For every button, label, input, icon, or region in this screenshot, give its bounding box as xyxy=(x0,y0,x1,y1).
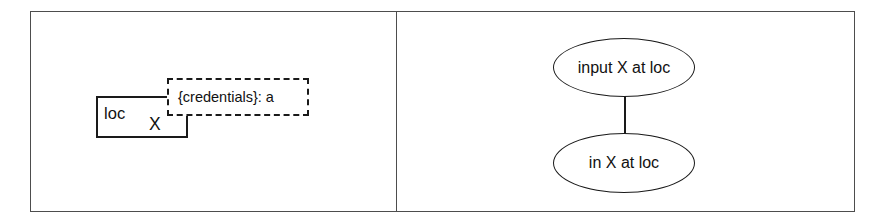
state-ellipse-input-label: input X at loc xyxy=(578,60,671,76)
figure-root: loc X {credentials}: a input X at loc in… xyxy=(0,0,884,224)
state-connector-line xyxy=(624,95,626,134)
credentials-note-text: {credentials}: a xyxy=(178,90,274,105)
state-ellipse-in-label: in X at loc xyxy=(589,155,659,171)
state-ellipse-in: in X at loc xyxy=(553,133,695,193)
state-ellipse-input: input X at loc xyxy=(553,38,695,97)
panel-right: input X at loc in X at loc xyxy=(397,11,855,212)
object-label-x: X xyxy=(149,116,161,134)
object-label-loc: loc xyxy=(104,105,125,122)
panel-left: loc X {credentials}: a xyxy=(30,11,396,212)
